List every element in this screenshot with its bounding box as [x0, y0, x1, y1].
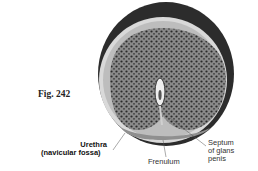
glans-spongy-tissue: [110, 28, 226, 130]
urethra-leader: [113, 133, 125, 150]
figure-number: Fig. 242: [38, 89, 70, 99]
frenulum-label: Frenulum: [148, 158, 180, 166]
septum-label: Septum of glans penis: [208, 139, 234, 163]
navicular-fossa-label: (navicular fossa): [41, 149, 101, 157]
